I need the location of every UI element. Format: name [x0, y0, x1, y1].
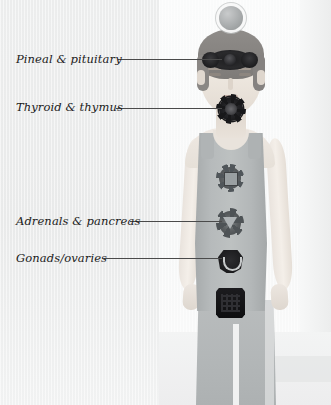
leader-line-adrenals-pancreas: [130, 221, 222, 222]
tank-top-strap-left: [201, 133, 214, 159]
root-chakra-icon: [216, 288, 245, 318]
third-eye-chakra-icon: [208, 50, 252, 70]
label-thyroid-thymus: Thyroid & thymus: [16, 100, 123, 114]
figure-nose: [228, 78, 233, 90]
tank-top-strap-right: [248, 133, 261, 159]
diagram-canvas: Pineal & pituitary Thyroid & thymus Adre…: [0, 0, 331, 405]
heart-chakra-core: [224, 172, 238, 186]
figure-eye-right: [239, 73, 251, 76]
figure-ear-left: [197, 70, 205, 85]
sacral-chakra-icon: [218, 250, 243, 273]
figure-hand-right: [270, 283, 289, 310]
crown-chakra-orb-icon: [219, 6, 243, 30]
leader-line-pineal-pituitary: [118, 59, 222, 60]
figure-ear-right: [257, 70, 265, 85]
label-gonads-ovaries: Gonads/ovaries: [16, 251, 107, 265]
leader-line-thyroid-thymus: [116, 108, 222, 109]
figure-leg-highlight: [265, 300, 274, 405]
sacral-chakra-crescent: [223, 257, 242, 271]
third-eye-chakra-core: [224, 54, 236, 66]
label-adrenals-pancreas: Adrenals & pancreas: [16, 214, 140, 228]
heart-chakra-icon: [219, 167, 241, 189]
throat-chakra-icon: [219, 97, 243, 121]
throat-chakra-core: [225, 103, 237, 115]
solar-plexus-chakra-icon: [219, 211, 241, 235]
label-pineal-pituitary: Pineal & pituitary: [16, 52, 122, 66]
figure-leg-gap: [233, 324, 239, 405]
figure-eye-left: [209, 73, 221, 76]
solar-plexus-chakra-triangle: [223, 217, 237, 229]
leader-line-gonads-ovaries: [104, 258, 222, 259]
